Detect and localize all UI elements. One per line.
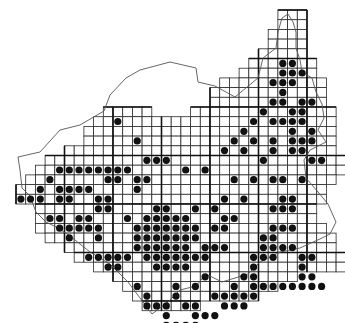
grid-cell [229, 185, 239, 195]
occurrence-dot [308, 157, 315, 164]
occurrence-dot [192, 283, 199, 290]
occurrence-dot [211, 293, 218, 300]
grid-cell [288, 88, 298, 98]
occurrence-dot [250, 264, 257, 271]
occurrence-dot [231, 302, 238, 309]
occurrence-dot [270, 99, 277, 106]
occurrence-dot [260, 157, 267, 164]
occurrence-dot [289, 108, 296, 115]
grid-cell [239, 136, 249, 146]
grid-cell [45, 233, 55, 243]
occurrence-dot [279, 176, 286, 183]
grid-cell [132, 107, 142, 117]
occurrence-dot [270, 234, 277, 241]
grid-cell [113, 272, 123, 282]
grid-cell [220, 107, 230, 117]
grid-cell [326, 243, 336, 253]
grid-cell [278, 185, 288, 195]
grid-cell [94, 185, 104, 195]
occurrence-dot [231, 176, 238, 183]
grid-cell [220, 282, 230, 292]
grid-cell [152, 117, 162, 127]
grid-cell [35, 175, 45, 185]
grid-cell [162, 126, 172, 136]
grid-cell [278, 107, 288, 117]
grid-cell [288, 156, 298, 166]
grid-cell [259, 88, 269, 98]
grid-cell [200, 291, 210, 301]
grid-cell [278, 272, 288, 282]
grid-cell [297, 29, 307, 39]
grid-cell [288, 185, 298, 195]
occurrence-dot [163, 215, 170, 222]
grid-cell [220, 175, 230, 185]
grid-cell [326, 175, 336, 185]
grid-cell [113, 185, 123, 195]
occurrence-dot [56, 186, 63, 193]
occurrence-dot [143, 215, 150, 222]
grid-cell [259, 97, 269, 107]
grid-cell [210, 156, 220, 166]
grid-cell [171, 272, 181, 282]
grid-cell [65, 175, 75, 185]
occurrence-dot [299, 273, 306, 280]
occurrence-dot [250, 273, 257, 280]
grid-cell [297, 126, 307, 136]
occurrence-dot [182, 225, 189, 232]
occurrence-dot [211, 205, 218, 212]
occurrence-dot [202, 273, 209, 280]
grid-cell [191, 214, 201, 224]
occurrence-dot [270, 254, 277, 261]
occurrence-dot [153, 205, 160, 212]
grid-cell [317, 146, 327, 156]
occurrence-dot [279, 244, 286, 251]
occurrence-dot [143, 176, 150, 183]
grid-cell [268, 68, 278, 78]
grid-cell [239, 282, 249, 292]
occurrence-dot [37, 186, 44, 193]
grid-cell [317, 165, 327, 175]
grid-cell [259, 204, 269, 214]
occurrence-dot [289, 205, 296, 212]
grid-cell [35, 214, 45, 224]
grid-cell [162, 291, 172, 301]
grid-cell [229, 97, 239, 107]
grid-cell [152, 136, 162, 146]
occurrence-dot [231, 137, 238, 144]
grid-cell [26, 175, 36, 185]
occurrence-dot [289, 137, 296, 144]
grid-cell [171, 156, 181, 166]
grid-cell [249, 97, 259, 107]
grid-cell [152, 126, 162, 136]
grid-cell [278, 49, 288, 59]
occurrence-dot [270, 176, 277, 183]
occurrence-dot [260, 108, 267, 115]
grid-cell [268, 107, 278, 117]
grid-cell [239, 223, 249, 233]
occurrence-dot [240, 302, 247, 309]
occurrence-dot [260, 234, 267, 241]
occurrence-dot [221, 196, 228, 203]
grid-cell [336, 262, 345, 272]
grid-cell [74, 156, 84, 166]
occurrence-dot [231, 215, 238, 222]
grid-cell [103, 243, 113, 253]
grid-cell [307, 175, 317, 185]
grid-cell [307, 78, 317, 88]
occurrence-dot [308, 254, 315, 261]
occurrence-dot [299, 264, 306, 271]
grid-cell [65, 204, 75, 214]
grid-cell [35, 165, 45, 175]
grid-cell [278, 253, 288, 263]
occurrence-dot [153, 302, 160, 309]
grid-cell [171, 301, 181, 311]
occurrence-dot [134, 244, 141, 251]
grid-cell [268, 59, 278, 69]
grid-cell [113, 194, 123, 204]
grid-cell [288, 97, 298, 107]
grid-cell [210, 136, 220, 146]
grid-cell [220, 78, 230, 88]
occurrence-dot [153, 244, 160, 251]
grid-cell [142, 185, 152, 195]
grid-cell [123, 175, 133, 185]
